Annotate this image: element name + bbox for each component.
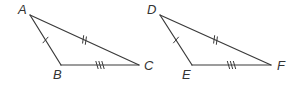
tick-mark-df (214, 35, 215, 43)
vertex-label-f: F (277, 58, 286, 73)
tick-mark-df (216, 36, 217, 44)
vertex-label-d: D (147, 2, 156, 17)
triangle-abc: ABC (17, 2, 154, 82)
congruent-triangles-diagram: ABCDEF (0, 0, 299, 87)
side-ac (30, 15, 139, 65)
vertex-label-c: C (144, 58, 154, 73)
vertex-label-b: B (53, 67, 62, 82)
tick-mark-ac (85, 36, 86, 44)
tick-mark-ac (83, 35, 84, 43)
triangle-def: DEF (147, 2, 286, 82)
vertex-label-e: E (182, 67, 191, 82)
vertex-label-a: A (17, 2, 27, 17)
